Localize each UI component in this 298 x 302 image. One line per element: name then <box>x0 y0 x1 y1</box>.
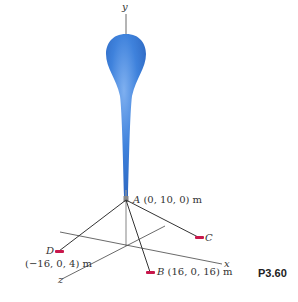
y-axis-label: y <box>122 2 128 12</box>
point-b-coords: (16, 0, 16) m <box>168 266 233 277</box>
balloon-diagram: y x z A (0, 10, 0) m C D (−16, 0, 4) m B… <box>0 0 298 302</box>
point-b-label: B (16, 0, 16) m <box>157 267 233 277</box>
problem-number: P3.60 <box>258 267 287 279</box>
point-d-letter: D <box>46 246 54 256</box>
point-c-letter: C <box>205 233 213 243</box>
point-a-label: A (0, 10, 0) m <box>133 195 202 205</box>
point-a-letter: A <box>133 194 140 205</box>
point-a-coords: (0, 10, 0) m <box>143 194 202 205</box>
anchor-b <box>146 271 155 274</box>
z-axis-label: z <box>58 275 63 285</box>
diagram-svg <box>0 0 298 302</box>
point-b-letter: B <box>157 266 164 277</box>
anchor-d <box>55 250 64 253</box>
anchor-c <box>195 236 204 239</box>
point-d-coords: (−16, 0, 4) m <box>25 259 92 269</box>
balloon <box>106 34 146 196</box>
